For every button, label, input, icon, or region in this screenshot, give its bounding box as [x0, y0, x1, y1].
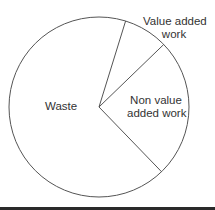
bottom-rule [0, 207, 215, 210]
label-non-value-line2: added work [127, 107, 185, 120]
label-non-value-line1: Non value [127, 94, 185, 107]
label-non-value-added-work: Non value added work [127, 94, 185, 120]
label-value-line1: Value added [143, 15, 205, 28]
label-value-added-work: Value added work [143, 15, 205, 41]
label-waste-text: Waste [45, 100, 77, 112]
label-waste: Waste [45, 100, 77, 113]
label-value-line2: work [143, 28, 205, 41]
